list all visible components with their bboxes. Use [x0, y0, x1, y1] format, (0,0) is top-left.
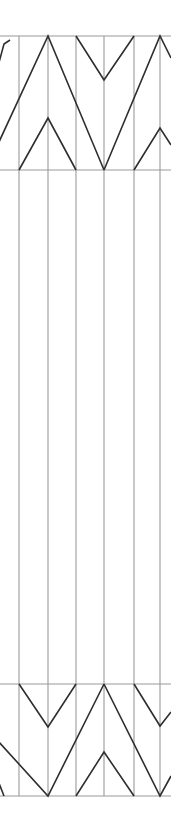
top-small-chevron-right — [76, 36, 134, 80]
vertical-rules-group — [19, 36, 160, 796]
bottom-chevron-band — [0, 684, 171, 796]
bottom-small-chevron-far-right — [134, 684, 171, 726]
horizontal-rules-group — [0, 36, 171, 796]
top-small-chevron-far-right — [134, 128, 171, 170]
bottom-small-chevron-far-left — [0, 760, 4, 796]
top-large-chevron-3 — [104, 36, 171, 170]
bottom-large-chevron-3 — [104, 684, 171, 796]
top-chevron-band — [0, 36, 171, 170]
zigzag-pattern-svg — [0, 0, 171, 835]
top-large-chevron-1 — [0, 40, 10, 110]
pattern-canvas — [0, 0, 171, 835]
bottom-large-chevron-2 — [0, 684, 104, 796]
bottom-small-chevron-right — [76, 752, 134, 796]
